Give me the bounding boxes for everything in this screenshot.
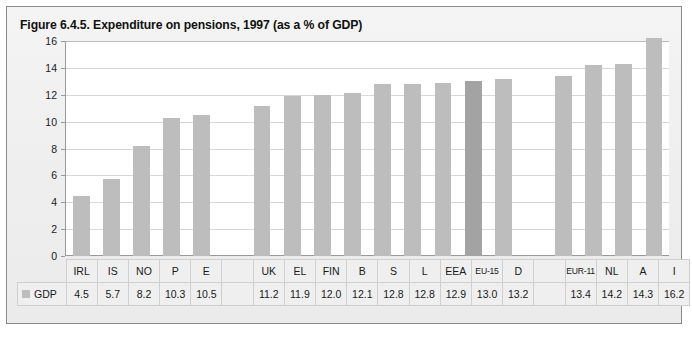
table-value-cell: 4.5	[66, 283, 97, 306]
table-value-cell: 10.5	[191, 283, 222, 306]
bar	[404, 84, 421, 256]
bar	[314, 95, 331, 256]
bar-slot	[187, 41, 217, 256]
table-header-cell: NO	[128, 260, 159, 283]
y-axis-tick-label: 12	[45, 89, 57, 101]
table-value-cell: 12.8	[409, 283, 440, 306]
table-corner-cell	[18, 260, 67, 283]
y-axis-tick-label: 4	[51, 196, 57, 208]
data-table-wrap: IRLISNOPEUKELFINBSLEEAEU-15DEUR-11NLAI G…	[17, 259, 669, 306]
table-header-cell: EEA	[440, 260, 471, 283]
data-table: IRLISNOPEUKELFINBSLEEAEU-15DEUR-11NLAI G…	[17, 259, 690, 306]
y-axis: 1614121086420	[17, 41, 63, 256]
y-axis-tick-label: 6	[51, 169, 57, 181]
table-header-cell: B	[347, 260, 378, 283]
table-header-cell: EUR-11	[565, 260, 596, 283]
bar-slot	[428, 41, 458, 256]
y-axis-tick-mark	[61, 256, 65, 257]
bar-slot	[579, 41, 609, 256]
bar	[103, 179, 120, 256]
table-value-cell: 12.1	[347, 283, 378, 306]
table-header-cell: A	[627, 260, 658, 283]
y-axis-tick-label: 8	[51, 143, 57, 155]
legend-swatch-icon	[22, 290, 30, 298]
bar	[133, 146, 150, 256]
bar	[73, 196, 90, 256]
bar-slot	[458, 41, 488, 256]
table-value-cell: 11.2	[253, 283, 284, 306]
y-axis-tick-label: 16	[45, 35, 57, 47]
table-value-cell: 14.3	[627, 283, 658, 306]
table-header-cell-empty	[222, 260, 253, 283]
bar	[646, 41, 663, 256]
bar-slot	[639, 41, 669, 256]
bar	[615, 64, 632, 256]
table-header-cell: EU-15	[471, 260, 502, 283]
y-axis-tick-label: 2	[51, 223, 57, 235]
table-header-cell: P	[160, 260, 191, 283]
bar-slot	[337, 41, 367, 256]
bar-slot-empty	[217, 41, 247, 256]
bar	[254, 106, 271, 257]
bar-slot	[368, 41, 398, 256]
table-row-labels: IRLISNOPEUKELFINBSLEEAEU-15DEUR-11NLAI	[18, 260, 690, 283]
bar	[374, 84, 391, 256]
bar-slot	[126, 41, 156, 256]
legend-cell: GDP	[18, 283, 67, 306]
bar-slot	[488, 41, 518, 256]
table-value-cell-empty	[222, 283, 253, 306]
table-row-values: GDP 4.55.78.210.310.511.211.912.012.112.…	[18, 283, 690, 306]
y-axis-tick-label: 14	[45, 62, 57, 74]
bar	[555, 76, 572, 256]
bar	[435, 83, 452, 256]
table-header-cell: D	[503, 260, 534, 283]
page-title: Figure 6.4.5. Expenditure on pensions, 1…	[20, 18, 362, 32]
bar-highlighted	[465, 81, 482, 256]
table-value-cell: 12.9	[440, 283, 471, 306]
bar-slot	[398, 41, 428, 256]
legend-label: GDP	[34, 288, 57, 300]
bar	[495, 79, 512, 256]
bar-slot	[609, 41, 639, 256]
table-value-cell-empty	[534, 283, 565, 306]
table-header-cell: I	[659, 260, 690, 283]
bar	[284, 96, 301, 256]
table-header-cell: FIN	[316, 260, 347, 283]
table-value-cell: 14.2	[596, 283, 627, 306]
table-header-cell: UK	[253, 260, 284, 283]
table-value-cell: 11.9	[284, 283, 315, 306]
figure-panel: Figure 6.4.5. Expenditure on pensions, 1…	[6, 6, 682, 324]
table-header-cell-empty	[534, 260, 565, 283]
table-value-cell: 10.3	[160, 283, 191, 306]
table-value-cell: 13.2	[503, 283, 534, 306]
bar	[193, 115, 210, 256]
bar-slot	[96, 41, 126, 256]
table-value-cell: 8.2	[128, 283, 159, 306]
table-header-cell: E	[191, 260, 222, 283]
table-value-cell: 5.7	[97, 283, 128, 306]
table-value-cell: 12.8	[378, 283, 409, 306]
table-header-cell: S	[378, 260, 409, 283]
bar-series-gdp	[66, 41, 669, 256]
plot-area	[65, 41, 669, 256]
table-header-cell: IS	[97, 260, 128, 283]
table-header-cell: IRL	[66, 260, 97, 283]
bar-slot	[307, 41, 337, 256]
table-header-cell: EL	[284, 260, 315, 283]
y-axis-tick-label: 10	[45, 116, 57, 128]
table-header-cell: NL	[596, 260, 627, 283]
figure-root: Figure 6.4.5. Expenditure on pensions, 1…	[0, 0, 692, 337]
bar-slot	[247, 41, 277, 256]
table-value-cell: 16.2	[659, 283, 690, 306]
bar-slot	[156, 41, 186, 256]
table-value-cell: 13.4	[565, 283, 596, 306]
table-value-cell: 12.0	[316, 283, 347, 306]
bar	[585, 65, 602, 256]
bar	[344, 93, 361, 256]
table-value-cell: 13.0	[471, 283, 502, 306]
bar-slot	[549, 41, 579, 256]
bar-slot	[66, 41, 96, 256]
table-header-cell: L	[409, 260, 440, 283]
bar-slot	[277, 41, 307, 256]
bar-slot-empty	[518, 41, 548, 256]
